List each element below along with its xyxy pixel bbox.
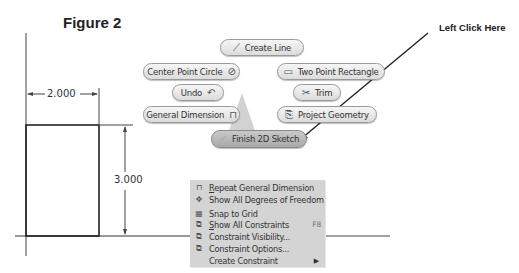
create-line-label: Create Line: [245, 43, 291, 53]
menu-item-label: Snap to Grid: [209, 209, 325, 219]
checkmark-icon: ✔: [219, 134, 227, 144]
trim-label: Trim: [315, 88, 332, 98]
undo-button[interactable]: Undo ↶: [172, 84, 224, 101]
general-dimension-button[interactable]: General Dimension ⊓: [143, 106, 240, 123]
two-point-rectangle-button[interactable]: ▭ Two Point Rectangle: [277, 63, 385, 80]
menu-item-create-constraint[interactable]: Create Constraint ▶: [190, 255, 325, 266]
show-constraints-icon: ⧉: [192, 220, 206, 230]
two-point-rectangle-label: Two Point Rectangle: [298, 67, 379, 77]
menu-item-constraint-options[interactable]: ⧉ Constraint Options...: [190, 243, 325, 254]
menu-item-show-all-constraints[interactable]: ⧉ Show All Constraints F8: [190, 219, 325, 230]
circle-icon: ⊘: [228, 67, 236, 77]
menu-item-repeat-general-dimension[interactable]: ⊓ Repeat General Dimension: [190, 182, 325, 193]
horizontal-dimension[interactable]: 2.000: [46, 88, 77, 99]
trim-icon: ✂: [302, 88, 310, 98]
menu-item-label: Create Constraint: [209, 256, 314, 266]
submenu-arrow-icon: ▶: [314, 257, 319, 265]
sketch-rectangle: [26, 125, 99, 236]
menu-item-constraint-visibility[interactable]: ⧉ Constraint Visibility...: [190, 231, 325, 242]
project-geometry-button[interactable]: ⎘ Project Geometry: [277, 106, 377, 123]
undo-icon: ↶: [207, 88, 215, 98]
general-dimension-label: General Dimension: [146, 110, 224, 120]
project-geometry-icon: ⎘: [285, 110, 293, 120]
menu-item-label: Constraint Visibility...: [209, 232, 325, 242]
menu-item-label: Constraint Options...: [209, 244, 325, 254]
menu-item-snap-to-grid[interactable]: ▦ Snap to Grid: [190, 208, 325, 219]
finish-2d-sketch-button[interactable]: ✔ Finish 2D Sketch: [211, 130, 307, 148]
menu-item-label: how All Constraints: [214, 220, 289, 230]
center-point-circle-label: Center Point Circle: [147, 67, 222, 77]
constraint-visibility-icon: ⧉: [192, 232, 206, 242]
dimension-icon: ⊓: [192, 183, 206, 192]
snap-grid-icon: ▦: [192, 209, 206, 218]
shortcut-f8: F8: [312, 220, 321, 229]
vertical-dimension[interactable]: 3.000: [113, 174, 144, 185]
undo-label: Undo: [181, 88, 202, 98]
line-icon: ⟋: [233, 43, 240, 53]
rectangle-icon: ▭: [283, 67, 292, 77]
create-line-button[interactable]: ⟋ Create Line: [220, 39, 304, 56]
finish-2d-sketch-label: Finish 2D Sketch: [232, 134, 299, 144]
project-geometry-label: Project Geometry: [298, 110, 369, 120]
center-point-circle-button[interactable]: Center Point Circle ⊘: [143, 63, 240, 80]
menu-item-show-all-degrees-of-freedom[interactable]: ✥ Show All Degrees of Freedom: [190, 194, 325, 205]
menu-item-label: epeat General Dimension: [214, 183, 314, 193]
dimension-icon: ⊓: [229, 110, 237, 120]
constraint-options-icon: ⧉: [192, 244, 206, 254]
degrees-of-freedom-icon: ✥: [192, 195, 206, 204]
trim-button[interactable]: ✂ Trim: [293, 84, 341, 101]
menu-item-label: Show All Degrees of Freedom: [209, 195, 325, 205]
context-menu: ⊓ Repeat General Dimension ✥ Show All De…: [190, 180, 325, 267]
